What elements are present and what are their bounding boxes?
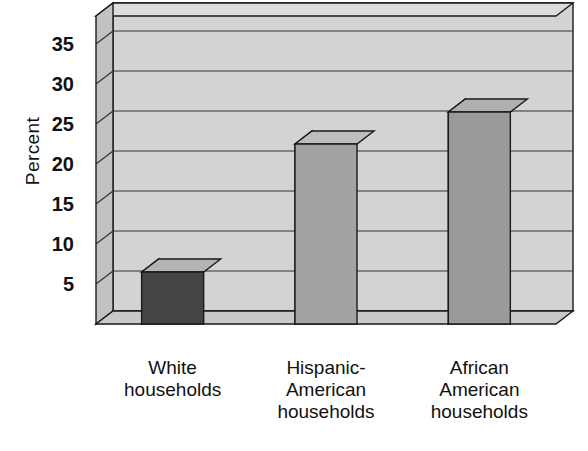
bar-front-face	[448, 112, 510, 324]
bar-front-face	[142, 272, 204, 324]
bar-chart: Percent 5101520253035 White householdsHi…	[0, 0, 588, 451]
bar-front-face	[295, 144, 357, 324]
x-category-label: Hispanic- American households	[244, 357, 409, 423]
plot-wall-top-bevel	[96, 3, 573, 16]
plot-left-wall	[96, 3, 113, 324]
x-category-label: White households	[90, 357, 255, 401]
x-category-label: African American households	[397, 357, 562, 423]
